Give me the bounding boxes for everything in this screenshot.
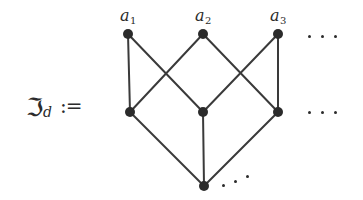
figure-canvas: ℑd := a1 a2 a3: [0, 0, 363, 200]
ellipsis-top-right: [308, 32, 348, 42]
ellipsis-dot: [334, 35, 337, 38]
ellipsis-bottom-right: [222, 172, 262, 190]
graph-node-b1: [125, 107, 135, 117]
graph-edge-a1-b1: [128, 34, 130, 112]
graph-node-a2: [198, 29, 208, 39]
graph-node-a1: [123, 29, 133, 39]
ellipsis-middle-right: [308, 108, 348, 118]
ellipsis-dot: [234, 180, 237, 183]
ellipsis-dot: [308, 111, 311, 114]
ellipsis-dot: [308, 35, 311, 38]
graph-node-b2: [198, 107, 208, 117]
graph-edge-b1-c1: [130, 112, 204, 186]
hasse-diagram-graph: [0, 0, 363, 200]
graph-node-c1: [199, 181, 209, 191]
ellipsis-dot: [246, 175, 249, 178]
ellipsis-dot: [222, 184, 225, 187]
graph-node-a3: [273, 29, 283, 39]
graph-node-b3: [273, 107, 283, 117]
ellipsis-dot: [334, 111, 337, 114]
graph-edge-b2-c1: [203, 112, 204, 186]
ellipsis-dot: [321, 111, 324, 114]
ellipsis-dot: [321, 35, 324, 38]
